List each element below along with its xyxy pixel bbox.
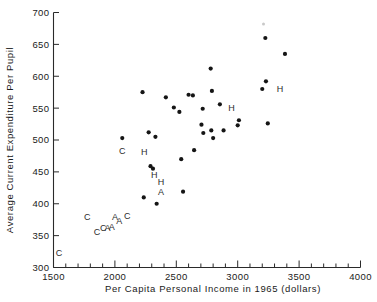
stray-ink-mark xyxy=(262,22,265,25)
y-tick-label: 650 xyxy=(32,39,49,50)
data-point xyxy=(120,136,124,140)
data-point xyxy=(210,89,214,93)
x-axis-tick-labels: 150020002500300035004000 xyxy=(42,271,372,282)
data-point xyxy=(209,128,213,132)
data-point xyxy=(191,93,195,97)
y-axis-ticks xyxy=(54,13,60,268)
x-axis-title: Per Capita Personal Income in 1965 (doll… xyxy=(105,283,321,294)
y-axis-tick-labels: 300350400450500550600650700 xyxy=(32,7,49,273)
data-point xyxy=(186,93,190,97)
data-point xyxy=(266,121,270,125)
point-letter-label: C xyxy=(56,248,63,258)
x-tick-label: 3000 xyxy=(226,271,249,282)
point-letter-label: A xyxy=(158,187,164,197)
data-point-group xyxy=(120,36,287,206)
data-point xyxy=(209,67,213,71)
data-point xyxy=(260,87,264,91)
point-letter-label: H xyxy=(141,147,148,157)
y-axis-title: Average Current Expenditure Per Pupil xyxy=(4,47,15,233)
chart-canvas: 300350400450500550600650700 150020002500… xyxy=(0,0,377,302)
data-point xyxy=(221,128,225,132)
data-point xyxy=(218,102,222,106)
y-tick-label: 500 xyxy=(32,134,49,145)
point-letter-label: C xyxy=(119,146,126,156)
data-point xyxy=(192,148,196,152)
data-point xyxy=(177,110,181,114)
x-tick-label: 2000 xyxy=(104,271,127,282)
data-point xyxy=(172,105,176,109)
x-axis-minor-ticks xyxy=(66,264,348,268)
point-letter-label: C xyxy=(124,211,131,221)
y-tick-label: 450 xyxy=(32,166,49,177)
data-point xyxy=(201,107,205,111)
data-point xyxy=(263,36,267,40)
x-tick-label: 3500 xyxy=(288,271,311,282)
data-point xyxy=(153,135,157,139)
data-point xyxy=(236,123,240,127)
point-letter-label: H xyxy=(228,103,235,113)
ink-smudge xyxy=(262,22,265,25)
x-tick-label: 1500 xyxy=(42,271,65,282)
data-point xyxy=(264,79,268,83)
data-point xyxy=(147,130,151,134)
data-point xyxy=(237,118,241,122)
data-point xyxy=(283,52,287,56)
point-letter-label: A xyxy=(116,216,122,226)
data-point xyxy=(201,131,205,135)
point-letter-label: A xyxy=(109,222,115,232)
point-letter-label: H xyxy=(277,84,284,94)
data-point xyxy=(199,123,203,127)
y-tick-label: 350 xyxy=(32,230,49,241)
y-tick-label: 600 xyxy=(32,71,49,82)
y-tick-label: 700 xyxy=(32,7,49,18)
x-tick-label: 2500 xyxy=(165,271,188,282)
data-point xyxy=(179,157,183,161)
point-letter-label: C xyxy=(84,212,91,222)
data-point xyxy=(211,136,215,140)
scatter-plot-figure: 300350400450500550600650700 150020002500… xyxy=(0,0,377,302)
data-point xyxy=(181,190,185,194)
data-point xyxy=(155,202,159,206)
point-letter-label: H xyxy=(151,170,158,180)
y-tick-label: 400 xyxy=(32,198,49,209)
x-axis-ticks xyxy=(54,261,361,268)
point-letter-label: H xyxy=(158,177,165,187)
data-point xyxy=(164,95,168,99)
data-point xyxy=(142,195,146,199)
data-point xyxy=(140,90,144,94)
x-tick-label: 4000 xyxy=(349,271,372,282)
y-tick-label: 550 xyxy=(32,103,49,114)
letter-label-group: CCCCAAAACCHHHAHH xyxy=(56,84,284,258)
